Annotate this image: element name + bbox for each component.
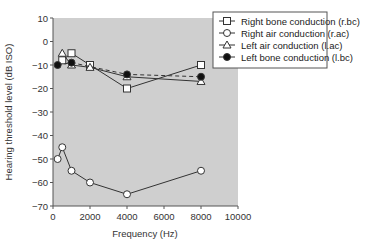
- circle-marker: [87, 179, 94, 186]
- y-tick-label: −60: [32, 177, 48, 188]
- y-axis-title: Hearing threshold level (dB ISO): [3, 44, 14, 181]
- circle-marker: [124, 191, 131, 198]
- x-tick-label: 4000: [116, 211, 137, 222]
- x-tick-label: 10000: [225, 211, 251, 222]
- x-tick-label: 8000: [190, 211, 211, 222]
- circle-marker: [54, 156, 61, 163]
- filled-circle-marker: [68, 59, 75, 66]
- filled-circle-marker: [54, 62, 61, 69]
- x-axis-title: Frequency (Hz): [112, 228, 177, 239]
- legend-label: Right bone conduction (r.bc): [241, 16, 360, 27]
- square-marker: [198, 62, 205, 69]
- square-marker: [224, 18, 231, 25]
- y-tick-label: 10: [37, 13, 48, 24]
- y-tick-label: −10: [32, 60, 48, 71]
- legend-label: Left air conduction (l.ac): [241, 40, 342, 51]
- filled-circle-marker: [124, 71, 131, 78]
- x-tick-label: 2000: [79, 211, 100, 222]
- circle-marker: [59, 144, 66, 151]
- circle-marker: [198, 167, 205, 174]
- legend-item: Right bone conduction (r.bc): [219, 16, 360, 27]
- legend-label: Left bone conduction (l.bc): [241, 52, 353, 63]
- square-marker: [124, 85, 131, 92]
- y-tick-label: −20: [32, 83, 48, 94]
- x-tick-label: 0: [50, 211, 55, 222]
- legend: Right bone conduction (r.bc)Right air co…: [213, 12, 360, 68]
- y-tick-label: −30: [32, 107, 48, 118]
- plot-area: [53, 18, 238, 206]
- filled-circle-marker: [198, 73, 205, 80]
- y-tick-label: −40: [32, 130, 48, 141]
- y-tick-label: −50: [32, 154, 48, 165]
- y-tick-label: −70: [32, 201, 48, 212]
- audiogram-chart: 100−10−20−30−40−50−60−700200040006000800…: [0, 0, 369, 251]
- square-marker: [68, 50, 75, 57]
- filled-circle-marker: [224, 54, 231, 61]
- y-tick-label: 0: [43, 36, 48, 47]
- circle-marker: [224, 30, 231, 37]
- circle-marker: [68, 167, 75, 174]
- x-tick-label: 6000: [153, 211, 174, 222]
- legend-label: Right air conduction (r.ac): [241, 28, 349, 39]
